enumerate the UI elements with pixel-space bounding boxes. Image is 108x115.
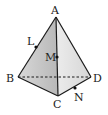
label-a: A xyxy=(50,4,60,17)
face-acd xyxy=(56,17,91,96)
label-d: D xyxy=(93,72,102,85)
label-b: B xyxy=(6,72,14,85)
label-l: L xyxy=(27,35,35,48)
label-c: C xyxy=(53,98,61,111)
point-n xyxy=(73,86,76,89)
tetrahedron-diagram: A B C D L M N xyxy=(0,0,108,115)
label-m: M xyxy=(45,51,56,64)
label-n: N xyxy=(74,91,84,104)
point-l xyxy=(34,45,37,48)
